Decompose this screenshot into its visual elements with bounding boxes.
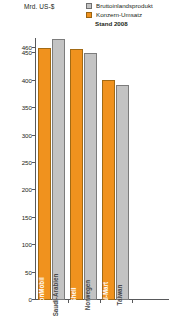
bar-norwegen: Norwegen xyxy=(84,53,97,300)
bar-label: Wal-Mart xyxy=(102,282,109,308)
bar-taiwan: Taiwan xyxy=(116,85,129,300)
y-axis-tick-label: 0 xyxy=(2,297,32,303)
x-axis-group-tick xyxy=(100,299,101,303)
chart-legend: Bruttoinlandsprodukt Konzern-Umsatz xyxy=(86,2,168,20)
y-axis-tick xyxy=(32,217,36,218)
y-axis-unit-label: Mrd. US-$ xyxy=(24,3,55,10)
bar-saudi-arabien: Saudi-Arabien xyxy=(52,39,65,300)
y-axis-tick-label: 150 xyxy=(2,215,32,221)
y-axis-tick xyxy=(32,135,36,136)
legend-swatch-revenue-icon xyxy=(86,12,92,18)
y-axis-tick xyxy=(32,52,36,53)
y-axis-tick xyxy=(32,107,36,108)
bar-label: Norwegen xyxy=(84,280,91,310)
legend-item-gdp: Bruttoinlandsprodukt xyxy=(86,2,168,10)
bar-exxonmobil: ExxonMobil xyxy=(38,48,51,300)
legend-swatch-gdp-icon xyxy=(86,3,92,9)
y-axis-tick-label: 200 xyxy=(2,187,32,193)
y-axis-line xyxy=(35,38,36,300)
legend-label-revenue: Konzern-Umsatz xyxy=(96,11,142,18)
bar-shell: Shell xyxy=(70,49,83,300)
y-axis-tick-label: 50 xyxy=(2,270,32,276)
plot-area: ExxonMobilSaudi-ArabienShellNorwegenWal-… xyxy=(35,38,169,300)
bar-label: Shell xyxy=(70,287,77,302)
y-axis-tick-label: 250 xyxy=(2,160,32,166)
y-axis-tick xyxy=(32,47,36,48)
legend-item-revenue: Konzern-Umsatz xyxy=(86,11,168,19)
y-axis-tick xyxy=(32,272,36,273)
y-axis-tick xyxy=(32,299,36,300)
bar-label: Saudi-Arabien xyxy=(52,274,59,316)
y-axis-tick-label: 100 xyxy=(2,242,32,248)
bar-wal-mart: Wal-Mart xyxy=(102,80,115,300)
x-axis-group-tick xyxy=(132,299,133,303)
bar-label: ExxonMobil xyxy=(38,277,45,312)
y-axis-tick-labels: 460450400350300250200150100500 xyxy=(0,38,32,300)
bar-label: Taiwan xyxy=(116,285,123,306)
y-axis-tick xyxy=(32,189,36,190)
x-axis-group-tick xyxy=(68,299,69,303)
legend-label-gdp: Bruttoinlandsprodukt xyxy=(96,2,153,9)
y-axis-tick-label: 350 xyxy=(2,105,32,111)
y-axis-tick xyxy=(32,162,36,163)
y-axis-tick-label: 300 xyxy=(2,133,32,139)
y-axis-tick xyxy=(32,244,36,245)
y-axis-tick-label: 400 xyxy=(2,78,32,84)
y-axis-tick-label: 450 xyxy=(2,50,32,56)
y-axis-tick xyxy=(32,80,36,81)
stand-label: Stand 2008 xyxy=(95,20,128,27)
